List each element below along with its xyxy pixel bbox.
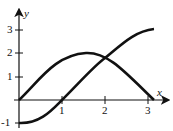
y-tick-2: 2 [7, 47, 13, 58]
function-graph: y x 1 2 3 3 2 1 -1 [0, 0, 173, 131]
y-tick-neg1: -1 [1, 117, 10, 128]
x-tick-2: 2 [102, 105, 108, 116]
y-tick-1: 1 [7, 71, 13, 82]
y-axis-label: y [24, 8, 29, 19]
curve-1-2cosx [19, 29, 154, 123]
x-axis-label: x [157, 87, 162, 98]
x-tick-3: 3 [145, 105, 151, 116]
x-tick-1: 1 [59, 105, 65, 116]
y-tick-3: 3 [7, 24, 13, 35]
